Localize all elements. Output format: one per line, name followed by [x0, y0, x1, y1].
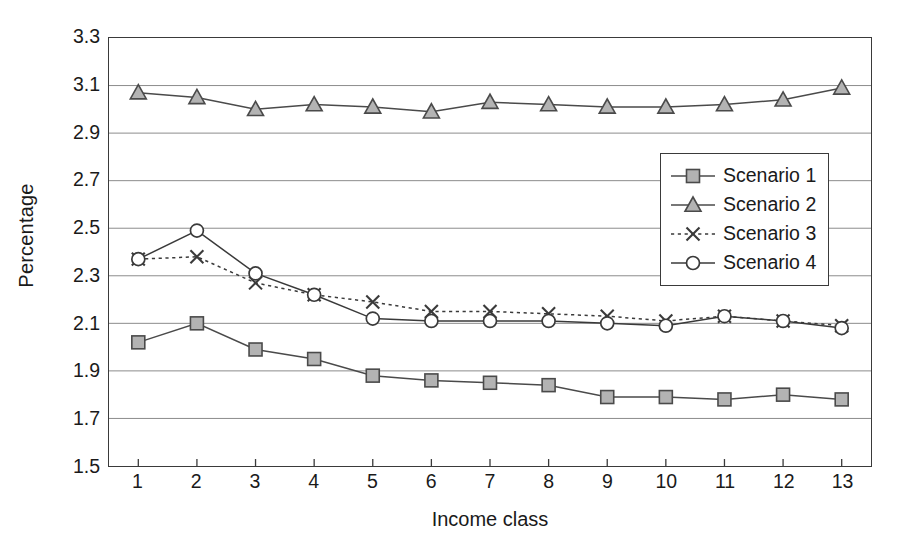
data-point-marker [306, 97, 322, 111]
legend-item-1[interactable]: Scenario 1 [670, 161, 816, 190]
data-point-marker [718, 310, 731, 323]
data-point-marker [425, 374, 438, 387]
y-tick-label: 2.3 [38, 266, 100, 286]
data-point-marker [249, 267, 262, 280]
chart-figure: Percentage 3.33.12.92.72.52.32.11.91.71.… [0, 0, 912, 552]
data-point-marker [484, 314, 497, 327]
data-point-marker [130, 85, 146, 99]
x-tick-label: 3 [249, 472, 260, 492]
y-axis-tick-labels: 3.33.12.92.72.52.32.11.91.71.5 [34, 0, 100, 552]
legend-marker-filled-triangle-icon [670, 194, 716, 216]
data-point-marker [482, 94, 498, 108]
data-point-marker [687, 169, 700, 182]
data-point-marker [601, 391, 614, 404]
x-tick-label: 12 [773, 472, 795, 492]
data-point-marker [834, 80, 850, 94]
data-point-marker [685, 197, 701, 211]
data-point-marker [687, 227, 700, 240]
x-axis-tick-labels: 12345678910111213 [108, 472, 872, 502]
x-axis-title: Income class [108, 508, 872, 531]
x-tick-label: 7 [485, 472, 496, 492]
y-tick-label: 2.1 [38, 314, 100, 334]
data-point-marker [835, 322, 848, 335]
data-point-marker [425, 314, 438, 327]
data-point-marker [484, 376, 497, 389]
legend-item-4[interactable]: Scenario 4 [670, 248, 816, 277]
legend-marker-filled-square-icon [670, 165, 716, 187]
legend-label: Scenario 3 [723, 224, 816, 244]
legend-item-2[interactable]: Scenario 2 [670, 190, 816, 219]
y-tick-label: 2.7 [38, 171, 100, 191]
chart-legend: Scenario 1Scenario 2Scenario 3Scenario 4 [660, 153, 829, 286]
y-tick-label: 2.9 [38, 123, 100, 143]
data-point-marker [687, 256, 700, 269]
x-tick-label: 5 [367, 472, 378, 492]
x-tick-label: 11 [715, 472, 735, 492]
legend-marker-open-circle-icon [670, 252, 716, 274]
x-tick-label: 4 [308, 472, 319, 492]
data-point-marker [132, 253, 145, 266]
legend-label: Scenario 1 [723, 166, 816, 186]
data-point-marker [190, 224, 203, 237]
y-tick-label: 2.5 [38, 218, 100, 238]
data-point-marker [190, 250, 203, 263]
data-point-marker [132, 336, 145, 349]
data-point-marker [308, 353, 321, 366]
data-point-marker [308, 288, 321, 301]
legend-label: Scenario 2 [723, 195, 816, 215]
legend-item-3[interactable]: Scenario 3 [670, 219, 816, 248]
data-point-marker [777, 314, 790, 327]
x-tick-label: 10 [655, 472, 677, 492]
x-tick-label: 13 [832, 472, 854, 492]
x-tick-label: 8 [543, 472, 554, 492]
data-point-marker [777, 388, 790, 401]
y-tick-label: 3.3 [38, 27, 100, 47]
data-point-marker [542, 314, 555, 327]
data-point-marker [542, 379, 555, 392]
data-point-marker [249, 343, 262, 356]
x-tick-marks [138, 459, 841, 466]
data-point-marker [718, 393, 731, 406]
data-point-marker [835, 393, 848, 406]
y-tick-label: 1.5 [38, 457, 100, 477]
legend-label: Scenario 4 [723, 253, 816, 273]
data-point-marker [601, 317, 614, 330]
x-tick-label: 9 [602, 472, 613, 492]
data-point-marker [659, 319, 672, 332]
x-tick-label: 6 [426, 472, 437, 492]
legend-marker-x-cross-icon [670, 223, 716, 245]
data-point-marker [366, 369, 379, 382]
y-tick-label: 1.9 [38, 362, 100, 382]
x-tick-label: 1 [132, 472, 143, 492]
x-tick-label: 2 [191, 472, 202, 492]
y-tick-label: 1.7 [38, 409, 100, 429]
data-point-marker [190, 317, 203, 330]
y-tick-label: 3.1 [38, 75, 100, 95]
series-1 [132, 317, 848, 406]
data-point-marker [366, 312, 379, 325]
data-point-marker [659, 391, 672, 404]
